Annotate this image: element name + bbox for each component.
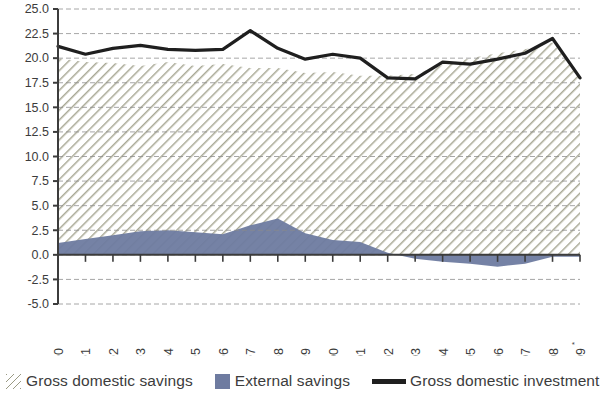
legend-label-gross-domestic-investment: Gross domestic investment (410, 372, 599, 390)
y-tick-label: 5.0 (32, 199, 49, 213)
y-tick-label: -5.0 (27, 297, 49, 311)
x-tick-label-group: 1990 (52, 348, 66, 356)
chart-legend: Gross domestic savings External savings … (0, 360, 608, 402)
x-tick-label-group: 1994 (162, 348, 176, 356)
y-tick-label: 15.0 (25, 101, 49, 115)
x-tick-label: 2000 (327, 348, 341, 356)
x-tick-label-group: 2007 (519, 348, 533, 356)
y-tick-label: -2.5 (27, 273, 49, 287)
x-tick-label-group: 1992 (107, 348, 121, 356)
y-tick-label: 17.5 (25, 76, 49, 90)
x-tick-label: 1991 (79, 348, 93, 356)
x-tick-label-group: 2008 (547, 348, 561, 356)
y-tick-label: 0.0 (32, 248, 49, 262)
x-tick-label: 2009 (574, 348, 588, 356)
y-tick-label: 7.5 (32, 174, 49, 188)
legend-label-external-savings: External savings (235, 372, 350, 390)
x-tick-label-group: 2006 (492, 348, 506, 356)
x-tick-label: 2006 (492, 348, 506, 356)
hatch-swatch-icon (6, 374, 21, 389)
x-tick-label-group: 1997 (244, 348, 258, 356)
plot-area: 25.022.520.017.515.012.510.07.55.02.50.0… (0, 0, 608, 356)
y-tick-label: 25.0 (25, 2, 49, 16)
x-tick-label: 1993 (134, 348, 148, 356)
y-tick-label: 2.5 (32, 224, 49, 238)
x-tick-label: 1997 (244, 348, 258, 356)
black-line-swatch-icon (372, 379, 406, 384)
x-tick-label-group: 1993 (134, 348, 148, 356)
x-tick-label-group: 2004 (437, 348, 451, 356)
x-tick-label: 1992 (107, 348, 121, 356)
blue-swatch-icon (215, 374, 230, 389)
x-tick-label-group: 1995 (189, 348, 203, 356)
x-tick-label-group: 1996 (217, 348, 231, 356)
legend-item-gross-domestic-savings: Gross domestic savings (6, 372, 193, 390)
legend-label-gross-domestic-savings: Gross domestic savings (26, 372, 193, 390)
legend-item-external-savings: External savings (215, 372, 350, 390)
x-tick-label-group: 1999 (299, 348, 313, 356)
x-tick-label-group: 2005 (464, 348, 478, 356)
x-tick-label-group: 2003 (409, 348, 423, 356)
x-tick-label: 1994 (162, 348, 176, 356)
x-tick-label-group: 2001 (354, 348, 368, 356)
x-tick-label-group: 2009* (570, 342, 588, 356)
x-tick-label: 1995 (189, 348, 203, 356)
x-tick-label-group: 2000 (327, 348, 341, 356)
x-tick-label-group: 1998 (272, 348, 286, 356)
x-tick-label-marker: * (570, 342, 579, 345)
x-tick-label: 2001 (354, 348, 368, 356)
x-tick-label: 2007 (519, 348, 533, 356)
y-tick-label: 22.5 (25, 27, 49, 41)
x-tick-label-group: 2002 (382, 348, 396, 356)
chart-svg: 25.022.520.017.515.012.510.07.55.02.50.0… (0, 0, 608, 356)
y-tick-label: 10.0 (25, 150, 49, 164)
chart-container: 25.022.520.017.515.012.510.07.55.02.50.0… (0, 0, 608, 402)
x-tick-label: 2002 (382, 348, 396, 356)
x-tick-label: 2003 (409, 348, 423, 356)
x-tick-label: 2008 (547, 348, 561, 356)
x-tick-label: 2005 (464, 348, 478, 356)
y-tick-label: 12.5 (25, 125, 49, 139)
series-area-gross-domestic-savings (58, 42, 580, 254)
x-tick-label: 1999 (299, 348, 313, 356)
x-tick-label: 1996 (217, 348, 231, 356)
x-tick-label: 1990 (52, 348, 66, 356)
legend-item-gross-domestic-investment: Gross domestic investment (372, 372, 599, 390)
y-tick-label: 20.0 (25, 51, 49, 65)
x-tick-label: 1998 (272, 348, 286, 356)
x-tick-label: 2004 (437, 348, 451, 356)
x-tick-label-group: 1991 (79, 348, 93, 356)
